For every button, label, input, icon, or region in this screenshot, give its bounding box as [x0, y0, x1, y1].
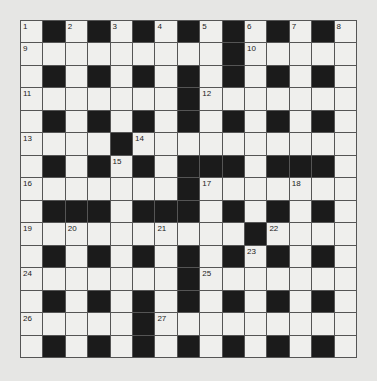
- answer-cell[interactable]: [21, 291, 42, 312]
- answer-cell[interactable]: [312, 223, 333, 244]
- answer-cell[interactable]: [290, 291, 311, 312]
- answer-cell[interactable]: [88, 133, 109, 154]
- answer-cell[interactable]: [133, 43, 154, 64]
- answer-cell[interactable]: [155, 246, 176, 267]
- answer-cell[interactable]: 20: [66, 223, 87, 244]
- answer-cell[interactable]: [245, 313, 266, 334]
- answer-cell[interactable]: 19: [21, 223, 42, 244]
- answer-cell[interactable]: [267, 313, 288, 334]
- answer-cell[interactable]: [223, 268, 244, 289]
- answer-cell[interactable]: [312, 313, 333, 334]
- answer-cell[interactable]: [43, 313, 64, 334]
- answer-cell[interactable]: [66, 336, 87, 357]
- answer-cell[interactable]: [21, 246, 42, 267]
- answer-cell[interactable]: [66, 133, 87, 154]
- answer-cell[interactable]: [335, 66, 356, 87]
- answer-cell[interactable]: 25: [200, 268, 221, 289]
- answer-cell[interactable]: [335, 223, 356, 244]
- answer-cell[interactable]: [200, 223, 221, 244]
- answer-cell[interactable]: [88, 43, 109, 64]
- answer-cell[interactable]: [200, 133, 221, 154]
- answer-cell[interactable]: 21: [155, 223, 176, 244]
- answer-cell[interactable]: [335, 246, 356, 267]
- answer-cell[interactable]: [312, 88, 333, 109]
- answer-cell[interactable]: [43, 133, 64, 154]
- answer-cell[interactable]: [111, 313, 132, 334]
- answer-cell[interactable]: [178, 43, 199, 64]
- answer-cell[interactable]: [155, 336, 176, 357]
- answer-cell[interactable]: 22: [267, 223, 288, 244]
- answer-cell[interactable]: [111, 246, 132, 267]
- answer-cell[interactable]: [133, 268, 154, 289]
- answer-cell[interactable]: 2: [66, 21, 87, 42]
- answer-cell[interactable]: 18: [290, 178, 311, 199]
- answer-cell[interactable]: [21, 66, 42, 87]
- answer-cell[interactable]: 5: [200, 21, 221, 42]
- answer-cell[interactable]: [335, 268, 356, 289]
- answer-cell[interactable]: [21, 156, 42, 177]
- answer-cell[interactable]: [290, 111, 311, 132]
- answer-cell[interactable]: [335, 178, 356, 199]
- answer-cell[interactable]: [155, 178, 176, 199]
- answer-cell[interactable]: [155, 291, 176, 312]
- answer-cell[interactable]: [43, 178, 64, 199]
- answer-cell[interactable]: [245, 336, 266, 357]
- answer-cell[interactable]: [290, 268, 311, 289]
- answer-cell[interactable]: [200, 246, 221, 267]
- answer-cell[interactable]: [66, 66, 87, 87]
- answer-cell[interactable]: [245, 133, 266, 154]
- answer-cell[interactable]: [155, 268, 176, 289]
- answer-cell[interactable]: [178, 223, 199, 244]
- answer-cell[interactable]: [290, 66, 311, 87]
- answer-cell[interactable]: [200, 66, 221, 87]
- answer-cell[interactable]: 27: [155, 313, 176, 334]
- answer-cell[interactable]: [43, 223, 64, 244]
- answer-cell[interactable]: [155, 133, 176, 154]
- answer-cell[interactable]: [267, 178, 288, 199]
- answer-cell[interactable]: [312, 133, 333, 154]
- answer-cell[interactable]: [290, 201, 311, 222]
- answer-cell[interactable]: [335, 201, 356, 222]
- answer-cell[interactable]: [111, 111, 132, 132]
- answer-cell[interactable]: [155, 66, 176, 87]
- answer-cell[interactable]: 23: [245, 246, 266, 267]
- answer-cell[interactable]: [335, 291, 356, 312]
- answer-cell[interactable]: [223, 133, 244, 154]
- answer-cell[interactable]: [312, 43, 333, 64]
- answer-cell[interactable]: [200, 111, 221, 132]
- answer-cell[interactable]: [290, 43, 311, 64]
- answer-cell[interactable]: [133, 178, 154, 199]
- answer-cell[interactable]: [312, 178, 333, 199]
- answer-cell[interactable]: [200, 43, 221, 64]
- answer-cell[interactable]: [88, 178, 109, 199]
- answer-cell[interactable]: [245, 268, 266, 289]
- answer-cell[interactable]: [111, 336, 132, 357]
- answer-cell[interactable]: [111, 201, 132, 222]
- answer-cell[interactable]: [66, 268, 87, 289]
- answer-cell[interactable]: [111, 178, 132, 199]
- answer-cell[interactable]: [155, 88, 176, 109]
- answer-cell[interactable]: [155, 156, 176, 177]
- answer-cell[interactable]: [43, 43, 64, 64]
- answer-cell[interactable]: 24: [21, 268, 42, 289]
- answer-cell[interactable]: 6: [245, 21, 266, 42]
- answer-cell[interactable]: [290, 88, 311, 109]
- answer-cell[interactable]: [111, 88, 132, 109]
- answer-cell[interactable]: [133, 88, 154, 109]
- answer-cell[interactable]: 8: [335, 21, 356, 42]
- answer-cell[interactable]: [88, 313, 109, 334]
- answer-cell[interactable]: [245, 88, 266, 109]
- answer-cell[interactable]: [178, 133, 199, 154]
- answer-cell[interactable]: [290, 133, 311, 154]
- answer-cell[interactable]: [21, 111, 42, 132]
- answer-cell[interactable]: [335, 336, 356, 357]
- answer-cell[interactable]: 1: [21, 21, 42, 42]
- answer-cell[interactable]: [312, 268, 333, 289]
- answer-cell[interactable]: [66, 246, 87, 267]
- answer-cell[interactable]: [66, 178, 87, 199]
- answer-cell[interactable]: 12: [200, 88, 221, 109]
- answer-cell[interactable]: [290, 223, 311, 244]
- answer-cell[interactable]: [335, 156, 356, 177]
- answer-cell[interactable]: [21, 336, 42, 357]
- answer-cell[interactable]: [290, 313, 311, 334]
